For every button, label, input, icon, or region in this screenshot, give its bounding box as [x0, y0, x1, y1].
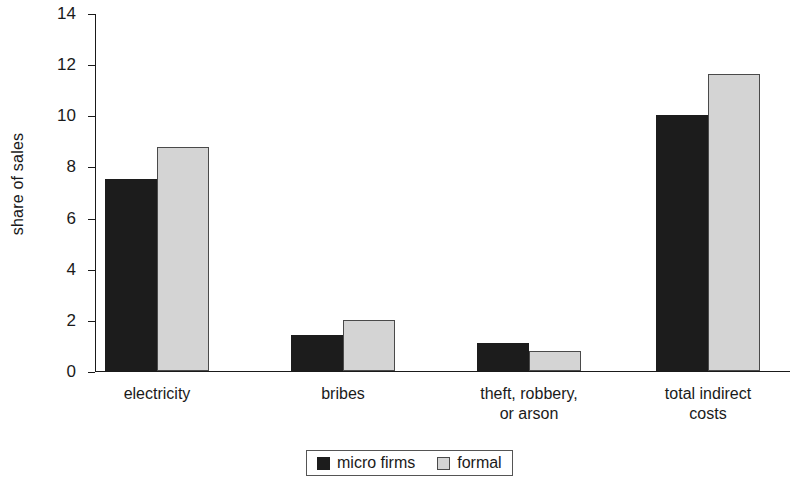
- y-axis-tick: [88, 372, 95, 373]
- y-axis-tick: [88, 167, 95, 168]
- y-axis-tick: [88, 270, 95, 271]
- x-axis-label-2: theft, robbery, or arson: [429, 384, 629, 424]
- bar-chart: share of sales 02468101214 electricitybr…: [0, 0, 799, 480]
- y-axis-line: [95, 14, 96, 372]
- bar-micro-firms-2: [477, 343, 529, 371]
- y-axis-tick: [88, 219, 95, 220]
- legend-item-micro-firms: micro firms: [317, 455, 415, 471]
- y-axis-tick: [88, 116, 95, 117]
- y-axis-label: share of sales: [9, 114, 27, 254]
- bar-micro-firms-1: [291, 335, 343, 371]
- legend: micro firms formal: [306, 450, 513, 476]
- y-axis-tick-label: 2: [36, 312, 76, 329]
- y-axis-tick-label: 12: [36, 56, 76, 73]
- legend-item-formal: formal: [437, 455, 501, 471]
- y-axis-tick: [88, 14, 95, 15]
- y-axis-tick-label: 10: [36, 107, 76, 124]
- y-axis-tick-label: 0: [36, 363, 76, 380]
- y-axis-tick: [88, 321, 95, 322]
- gray-square-swatch-icon: [437, 457, 450, 470]
- legend-label-micro-firms: micro firms: [337, 455, 415, 471]
- y-axis-tick-label: 4: [36, 261, 76, 278]
- x-axis-label-3: total indirect costs: [608, 384, 799, 424]
- bar-formal-2: [529, 351, 581, 371]
- x-axis-label-0: electricity: [57, 384, 257, 404]
- bar-formal-0: [157, 147, 209, 371]
- y-axis-tick-label: 6: [36, 210, 76, 227]
- bar-micro-firms-0: [105, 179, 157, 371]
- x-axis-label-1: bribes: [243, 384, 443, 404]
- bar-formal-1: [343, 320, 395, 371]
- plot-area: 02468101214: [95, 14, 790, 372]
- bar-formal-3: [708, 74, 760, 371]
- y-axis-tick-label: 8: [36, 158, 76, 175]
- legend-label-formal: formal: [457, 455, 501, 471]
- y-axis-tick: [88, 65, 95, 66]
- bar-micro-firms-3: [656, 115, 708, 371]
- y-axis-tick-label: 14: [36, 5, 76, 22]
- x-axis-line: [95, 371, 790, 372]
- black-square-swatch-icon: [317, 457, 330, 470]
